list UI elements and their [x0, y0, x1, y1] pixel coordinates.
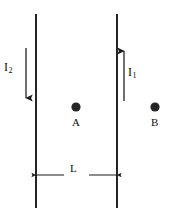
point-b-label: B [151, 117, 158, 128]
separation-length-label: L [70, 163, 77, 174]
current-label-i1: I1 [128, 66, 136, 80]
current-label-i1-subscript: 1 [132, 71, 136, 80]
current-label-i2-subscript: 2 [8, 66, 12, 75]
point-b-marker [150, 102, 159, 111]
point-a-label: A [72, 117, 80, 128]
current-label-i2: I2 [4, 61, 12, 75]
physics-diagram-figure: I2 I1 A B L [0, 0, 173, 213]
point-a-marker [71, 102, 80, 111]
diagram-canvas [0, 0, 173, 213]
